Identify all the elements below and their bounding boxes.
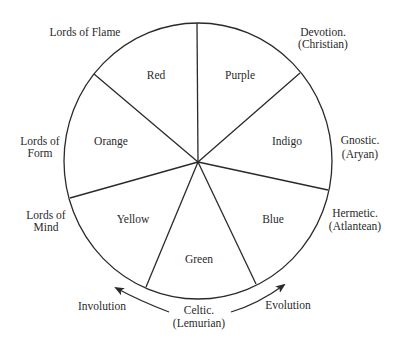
outer-label-lords-of-flame: Lords of Flame <box>50 26 121 38</box>
sector-label-purple: Purple <box>225 69 255 82</box>
sector-label-green: Green <box>185 253 213 265</box>
outer-label-lemurian: (Lemurian) <box>173 317 226 330</box>
outer-label-hermetic: Hermetic. <box>332 207 378 219</box>
spokes <box>70 23 328 287</box>
sector-label-indigo: Indigo <box>272 135 302 148</box>
spoke-upper-left <box>94 74 198 162</box>
spoke-lower-left <box>146 162 198 287</box>
spoke-lower-right <box>198 162 256 284</box>
outer-label-devotion: Devotion. <box>300 26 346 38</box>
evolution-label: Evolution <box>265 299 311 311</box>
sector-label-red: Red <box>147 69 166 81</box>
sector-label-yellow: Yellow <box>117 213 150 225</box>
spoke-top <box>197 23 198 162</box>
outer-label-lords-of-form-1: Lords of <box>20 135 59 147</box>
spoke-left <box>70 162 198 198</box>
involution-label: Involution <box>78 300 126 312</box>
outer-label-celtic: Celtic. <box>184 304 214 316</box>
sector-label-blue: Blue <box>262 213 284 225</box>
outer-label-gnostic: Gnostic. <box>341 134 380 146</box>
outer-label-aryan: (Aryan) <box>342 148 379 161</box>
seven-rays-diagram: Red Purple Indigo Blue Green Yellow Oran… <box>0 0 400 346</box>
outer-label-christian: (Christian) <box>298 38 348 51</box>
outer-label-lords-of-form-2: Form <box>28 147 53 159</box>
outer-label-lords-of-mind-1: Lords of <box>26 209 65 221</box>
spoke-right <box>198 162 328 190</box>
spoke-upper-right <box>198 73 300 162</box>
sector-label-orange: Orange <box>94 135 128 148</box>
outer-label-atlantean: (Atlantean) <box>329 220 382 233</box>
outer-label-lords-of-mind-2: Mind <box>34 221 59 233</box>
